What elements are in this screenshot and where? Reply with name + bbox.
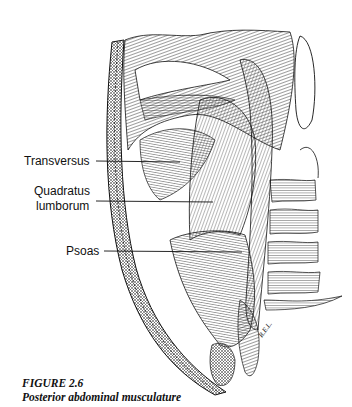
label-transversus: Transversus: [24, 154, 90, 168]
label-lumborum: lumborum: [36, 199, 89, 213]
artist-signature: R.E.L.: [257, 320, 274, 340]
label-quadratus: Quadratus: [34, 184, 90, 198]
figure-caption: Posterior abdominal musculature: [22, 391, 181, 404]
label-psoas: Psoas: [66, 244, 99, 258]
quadratus-lumborum-muscle: [189, 97, 255, 240]
figure-number: FIGURE 2.6: [22, 377, 83, 390]
vertebral-column: [264, 147, 342, 310]
